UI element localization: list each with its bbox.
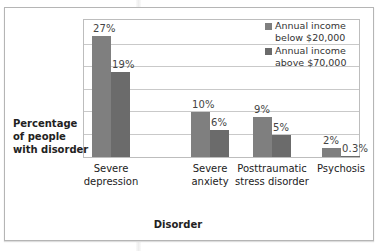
bar-value-label: 10% [192,99,215,110]
x-axis-label: Disorder [154,219,202,230]
legend-item-high-income: Annual income above $70,000 [265,45,346,69]
bar-low-income [191,112,210,157]
bar-value-label: 9% [254,104,270,115]
bar-value-label: 19% [112,59,135,70]
legend-swatch-icon [265,48,272,55]
category-label: Posttraumaticstress disorder [235,162,309,188]
legend-text: Annual income [275,45,346,57]
bar-high-income [341,156,360,157]
bar-value-label: 6% [211,117,227,128]
legend-swatch-icon [265,23,272,30]
bar-value-label: 5% [273,122,289,133]
legend-text: below $20,000 [275,32,346,44]
legend-item-low-income: Annual income below $20,000 [265,20,346,44]
y-axis-label-line: Percentage [13,117,88,130]
legend: Annual income below $20,000 Annual incom… [265,20,346,70]
category-label: Severeanxiety [191,162,228,188]
bar-value-label: 0.3% [342,143,368,154]
bar-value-label: 2% [323,135,339,146]
bar-low-income [322,148,341,157]
category-label: Severedepression [84,162,139,188]
y-axis-label-line: with disorder [13,143,88,156]
bar-high-income [272,135,291,157]
category-label: Psychosis [317,162,365,175]
legend-text: above $70,000 [275,57,346,69]
bar-high-income [210,130,229,157]
y-axis-label-line: of people [13,130,88,143]
bar-low-income [92,36,111,157]
bar-value-label: 27% [93,23,116,34]
legend-text: Annual income [275,20,346,32]
y-axis-label: Percentage of people with disorder [13,117,88,156]
bar-low-income [253,117,272,157]
bar-high-income [111,72,130,157]
